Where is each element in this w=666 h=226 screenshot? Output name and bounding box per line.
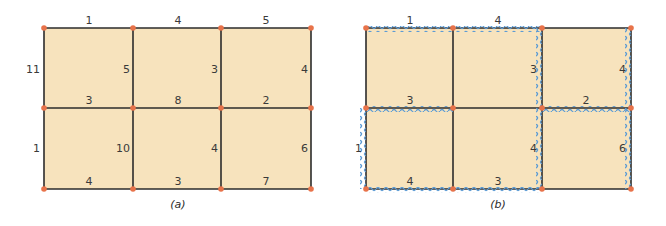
caption-b: (b) <box>490 198 506 211</box>
weight-label: 4 <box>619 63 626 76</box>
weight-label: 11 <box>26 63 40 76</box>
weight-label: 4 <box>301 63 308 76</box>
weight-label: 4 <box>86 175 93 188</box>
weight-label: 3 <box>175 175 182 188</box>
weight-label: 10 <box>116 142 130 155</box>
weight-label: 4 <box>175 14 182 27</box>
weight-label: 2 <box>583 94 590 107</box>
grid-diagram: 1 4 5 11 5 3 4 3 8 2 1 10 4 6 4 3 7 (a) <box>0 0 666 226</box>
weight-label: 8 <box>175 94 182 107</box>
weight-label: 3 <box>407 94 414 107</box>
weight-label: 3 <box>530 63 537 76</box>
panel-a: 1 4 5 11 5 3 4 3 8 2 1 10 4 6 4 3 7 (a) <box>26 14 314 211</box>
weight-label: 1 <box>86 14 93 27</box>
panel-b: 1 4 3 4 3 2 1 4 6 4 3 (b) <box>355 14 634 211</box>
weight-label: 6 <box>619 142 626 155</box>
weight-label: 1 <box>407 14 414 27</box>
caption-a: (a) <box>170 198 185 211</box>
weight-label: 1 <box>355 142 362 155</box>
weight-label: 4 <box>495 14 502 27</box>
weight-label: 4 <box>407 175 414 188</box>
weight-label: 4 <box>530 142 537 155</box>
weight-label: 3 <box>495 175 502 188</box>
weight-label: 5 <box>263 14 270 27</box>
weight-label: 5 <box>123 63 130 76</box>
weight-label: 3 <box>86 94 93 107</box>
weight-label: 6 <box>301 142 308 155</box>
weight-label: 2 <box>263 94 270 107</box>
weight-label: 1 <box>33 142 40 155</box>
weight-label: 3 <box>211 63 218 76</box>
weight-label: 7 <box>263 175 270 188</box>
weight-label: 4 <box>211 142 218 155</box>
